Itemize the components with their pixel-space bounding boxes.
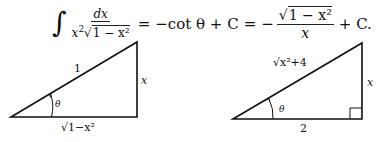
left-hypotenuse-label: 1 bbox=[74, 62, 81, 75]
left-angle-label: θ bbox=[55, 99, 60, 109]
right-hypotenuse-label: √x²+4 bbox=[273, 56, 307, 69]
right-opposite-label: x bbox=[367, 76, 373, 89]
left-opposite-label: x bbox=[141, 74, 147, 87]
right-adjacent-label: 2 bbox=[300, 122, 307, 135]
triangles-figure bbox=[0, 0, 377, 142]
right-triangle bbox=[233, 43, 362, 119]
left-adjacent-label: √1−x² bbox=[61, 121, 95, 134]
left-triangle bbox=[11, 42, 137, 117]
right-angle-label: θ bbox=[279, 104, 284, 114]
